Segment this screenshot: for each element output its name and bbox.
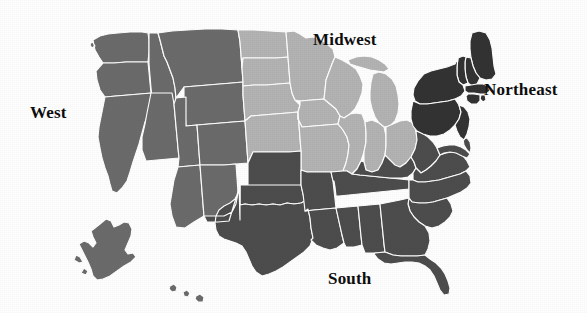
state-connecticut[interactable] bbox=[466, 94, 480, 104]
region-label-west: West bbox=[30, 104, 67, 121]
state-wyoming[interactable] bbox=[184, 82, 245, 126]
state-washington[interactable] bbox=[90, 32, 149, 63]
state-new-york[interactable] bbox=[413, 58, 465, 104]
state-south-dakota[interactable] bbox=[242, 57, 290, 86]
state-michigan-lower[interactable] bbox=[370, 72, 399, 127]
region-label-south: South bbox=[328, 270, 372, 287]
region-label-midwest: Midwest bbox=[313, 31, 377, 48]
state-colorado[interactable] bbox=[197, 121, 248, 165]
state-florida[interactable] bbox=[374, 252, 450, 295]
state-hawaii[interactable] bbox=[169, 284, 204, 302]
region-west[interactable] bbox=[74, 29, 248, 302]
state-arizona[interactable] bbox=[170, 165, 204, 228]
state-arkansas[interactable] bbox=[301, 170, 336, 211]
us-map-svg bbox=[0, 0, 587, 313]
state-pennsylvania[interactable] bbox=[411, 99, 461, 136]
state-oregon[interactable] bbox=[96, 62, 151, 97]
state-alaska[interactable] bbox=[74, 219, 136, 280]
us-regions-map-figure: Midwest Northeast West South bbox=[0, 0, 587, 313]
region-label-northeast: Northeast bbox=[484, 81, 558, 98]
